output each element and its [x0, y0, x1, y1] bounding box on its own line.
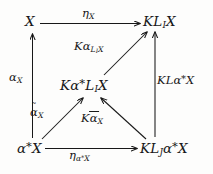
edge-label-eta-x: ηX — [82, 8, 94, 21]
edge-label-k-alpha-lix: KαLIX — [74, 41, 103, 55]
node-bottom-right: KLJα*X — [140, 141, 188, 157]
alpha-bar-subscript-X: X — [98, 117, 103, 126]
subscript-X-glyph: X — [98, 45, 103, 54]
subscript-x-glyph: X — [84, 154, 89, 163]
eta-glyph: η — [69, 148, 76, 162]
edge-label-kl-alpha-x: KLα*X — [157, 74, 194, 87]
node-top-right-K: K — [143, 13, 153, 29]
arrow-k-alpha-lix — [104, 32, 147, 75]
edge-label-k-alpha-bar-x: KαX — [81, 113, 103, 126]
edge-label-alpha-tilde-x: ˜αX — [30, 107, 43, 120]
node-center-K: K — [60, 77, 70, 93]
subscript-L: LIX — [91, 45, 104, 54]
commutative-diagram-figure: X KLIX Kα*LIX α*X KLJα*X ηX KαLIX KLα*X … — [0, 0, 213, 174]
node-top-left-label: X — [25, 13, 35, 29]
alpha-subscript-X: X — [17, 76, 22, 85]
node-center-X: X — [98, 77, 108, 93]
node-bottom-right-X: X — [178, 140, 188, 156]
node-center-L: L — [85, 77, 94, 93]
edge-label-alpha-x: αX — [9, 72, 22, 85]
node-bottom-right-star: * — [172, 139, 178, 153]
overbar-accent — [89, 111, 99, 112]
arrow-alpha-tilde-x — [42, 98, 83, 139]
node-bottom-left: α*X — [17, 141, 42, 155]
alpha-glyph: α — [83, 39, 91, 53]
node-bottom-left-X: X — [32, 140, 42, 156]
alpha-tilde-subscript-X: X — [38, 111, 43, 120]
x-glyph: X — [186, 73, 194, 87]
arrow-k-alpha-bar-x — [101, 98, 146, 139]
node-top-right-X: X — [166, 13, 176, 29]
node-bottom-right-K: K — [140, 140, 150, 156]
eta-subscript-X: X — [89, 12, 94, 21]
alpha-glyph: α — [90, 111, 98, 125]
node-bottom-right-alpha: α — [163, 140, 172, 156]
k-glyph: K — [74, 39, 83, 53]
alpha-bar-group: α — [90, 113, 98, 125]
node-top-right: KLIX — [143, 15, 176, 30]
node-top-left: X — [25, 15, 35, 29]
kl-glyph: KL — [157, 73, 173, 87]
eta-glyph: η — [82, 6, 89, 20]
tilde-accent: ˜ — [31, 102, 37, 111]
node-bottom-left-alpha: α — [17, 140, 26, 156]
eta-subscript-alpha-star-x: α*X — [76, 154, 90, 163]
edge-label-eta-alpha-x: ηα*X — [69, 150, 90, 163]
alpha-tilde-group: ˜α — [30, 107, 38, 119]
k-glyph: K — [81, 111, 90, 125]
node-bottom-left-star: * — [26, 139, 32, 153]
alpha-glyph: α — [9, 70, 17, 84]
node-center: Kα*LIX — [60, 78, 108, 94]
